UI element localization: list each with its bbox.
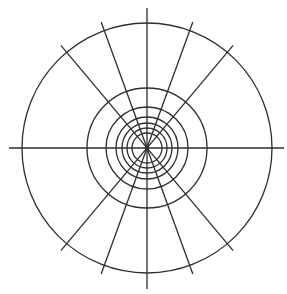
radial-lines — [9, 8, 284, 289]
polar-diagram — [0, 0, 287, 294]
center-point — [145, 146, 149, 150]
